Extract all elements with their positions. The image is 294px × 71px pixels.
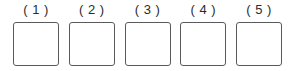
- answer-boxes-worksheet: ( 1 ) ( 2 ) ( 3 ) ( 4 ) ( 5 ): [0, 0, 294, 71]
- answer-cell-5: ( 5 ): [236, 0, 282, 66]
- answer-cell-4: ( 4 ): [180, 0, 226, 66]
- answer-box-4[interactable]: [180, 22, 226, 66]
- answer-cell-3: ( 3 ): [125, 0, 171, 66]
- answer-box-5[interactable]: [236, 22, 282, 66]
- answer-box-3[interactable]: [125, 22, 171, 66]
- answer-cell-1: ( 1 ): [13, 0, 59, 66]
- answer-cell-2: ( 2 ): [69, 0, 115, 66]
- answer-label-1: ( 1 ): [23, 0, 49, 20]
- answer-box-2[interactable]: [69, 22, 115, 66]
- answer-label-2: ( 2 ): [79, 0, 105, 20]
- answer-box-1[interactable]: [13, 22, 59, 66]
- answer-label-3: ( 3 ): [135, 0, 161, 20]
- answer-box-row: ( 1 ) ( 2 ) ( 3 ) ( 4 ) ( 5 ): [13, 0, 282, 71]
- answer-label-4: ( 4 ): [190, 0, 216, 20]
- answer-label-5: ( 5 ): [246, 0, 272, 20]
